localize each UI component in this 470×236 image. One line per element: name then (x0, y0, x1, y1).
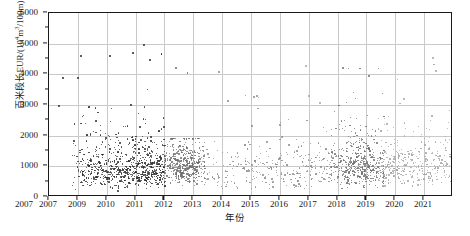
scatter-point (179, 181, 180, 182)
scatter-point (374, 157, 375, 158)
scatter-point (351, 165, 352, 166)
scatter-point (290, 179, 291, 180)
scatter-point (404, 168, 406, 170)
scatter-point (357, 177, 358, 178)
scatter-point (371, 135, 372, 136)
scatter-point (381, 146, 382, 147)
scatter-point (192, 144, 193, 145)
scatter-point (375, 185, 376, 186)
scatter-point (386, 157, 387, 158)
scatter-point (249, 182, 250, 183)
scatter-point (159, 177, 161, 179)
scatter-point (176, 167, 177, 168)
scatter-point (342, 128, 343, 129)
scatter-point (410, 150, 411, 151)
scatter-point (201, 157, 202, 158)
scatter-point (335, 171, 336, 172)
scatter-point (339, 124, 341, 126)
scatter-point (154, 173, 155, 174)
scatter-point (359, 148, 360, 149)
scatter-point (272, 163, 273, 164)
scatter-point (145, 119, 146, 120)
scatter-point (88, 106, 89, 107)
scatter-point (189, 178, 190, 179)
scatter-point (84, 176, 85, 177)
scatter-point (227, 100, 229, 102)
scatter-point (147, 154, 148, 155)
scatter-point (101, 165, 102, 166)
scatter-point (362, 181, 363, 182)
scatter-point (124, 187, 125, 188)
scatter-point (444, 175, 445, 176)
scatter-point (120, 172, 121, 173)
scatter-point (337, 182, 338, 183)
scatter-point (155, 182, 156, 183)
scatter-point (156, 153, 157, 154)
scatter-point (98, 161, 99, 162)
scatter-point (204, 168, 206, 170)
scatter-point (179, 145, 180, 146)
x-axis-ticklabels: 2007200720092010201120122013201420152016… (0, 199, 470, 213)
scatter-point (349, 171, 350, 172)
scatter-point (182, 185, 183, 186)
scatter-point (378, 68, 379, 69)
scatter-point (125, 154, 126, 155)
scatter-point (121, 152, 122, 153)
scatter-point (116, 177, 118, 179)
scatter-point (82, 164, 83, 165)
scatter-point (105, 133, 106, 134)
scatter-point (306, 120, 308, 122)
scatter-point (320, 146, 321, 147)
scatter-point (156, 144, 157, 145)
scatter-point (363, 161, 364, 162)
scatter-point (207, 173, 208, 174)
scatter-point (335, 156, 336, 157)
scatter-point (143, 157, 144, 158)
scatter-point (246, 180, 247, 181)
scatter-point (147, 173, 148, 174)
scatter-point (334, 150, 335, 151)
scatter-point (424, 156, 425, 157)
scatter-point (121, 146, 123, 148)
scatter-point (436, 176, 437, 177)
scatter-point (161, 128, 162, 129)
scatter-point (90, 133, 91, 134)
scatter-point (311, 158, 312, 159)
scatter-point (339, 158, 341, 160)
scatter-point (331, 149, 332, 150)
scatter-point (134, 160, 135, 161)
scatter-point (232, 161, 234, 163)
scatter-point (119, 149, 120, 150)
scatter-point (126, 170, 127, 171)
scatter-point (138, 177, 139, 178)
scatter-point (112, 187, 113, 188)
scatter-point (192, 151, 193, 152)
scatter-point (296, 139, 297, 140)
scatter-point (233, 175, 234, 176)
scatter-point (333, 145, 334, 146)
scatter-point (275, 164, 276, 165)
scatter-point (204, 154, 205, 155)
scatter-point (412, 185, 413, 186)
scatter-point (418, 126, 419, 127)
scatter-point (297, 172, 298, 173)
scatter-point (447, 142, 448, 143)
scatter-point (286, 185, 287, 186)
scatter-point (133, 180, 134, 181)
scatter-point (179, 154, 180, 155)
scatter-point (95, 107, 96, 108)
scatter-point (321, 181, 322, 182)
scatter-point (110, 161, 111, 162)
x-tick-2013 (221, 196, 222, 200)
scatter-point (149, 170, 150, 171)
scatter-point (294, 187, 295, 188)
scatter-point (403, 180, 404, 181)
scatter-point (109, 178, 110, 179)
scatter-point (356, 141, 357, 142)
x-tick-label-14: 2021 (414, 199, 432, 209)
scatter-point (368, 148, 370, 150)
scatter-point (426, 173, 427, 174)
scatter-point (398, 158, 400, 160)
scatter-point (435, 141, 436, 142)
scatter-point (283, 165, 284, 166)
